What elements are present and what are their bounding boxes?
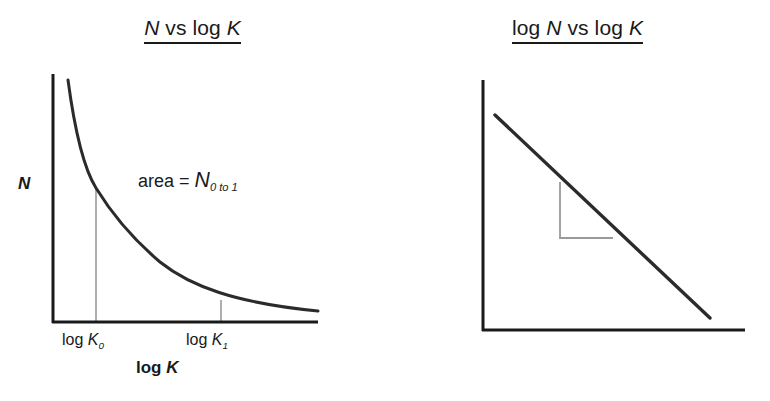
panel-n-vs-logk: N vs log K N log K log K0 log K1 area = … xyxy=(0,0,385,401)
tick-logk1-subscript: 1 xyxy=(222,340,228,351)
tick-logk1-prefix: log xyxy=(186,331,212,348)
power-law-line xyxy=(495,115,710,318)
annotation-area-prefix: area = xyxy=(138,171,195,191)
y-axis-label-left: N xyxy=(18,174,30,194)
plot-right-svg xyxy=(385,0,770,401)
x-axis-label-left: log K xyxy=(136,358,179,378)
x-axis-label-left-var: K xyxy=(166,358,178,377)
tick-label-logk0: log K0 xyxy=(62,331,104,349)
tick-logk0-subscript: 0 xyxy=(98,340,104,351)
panel-logn-vs-logk: log N vs log K log N log K slope = -m xyxy=(385,0,770,401)
tick-logk0-var: K xyxy=(88,331,99,348)
annotation-area-subscript: 0 to 1 xyxy=(210,181,238,193)
tick-logk0-prefix: log xyxy=(62,331,88,348)
figure-container: N vs log K N log K log K0 log K1 area = … xyxy=(0,0,770,401)
tick-logk1-var: K xyxy=(212,331,223,348)
annotation-area: area = N0 to 1 xyxy=(138,168,238,193)
tick-label-logk1: log K1 xyxy=(186,331,228,349)
decay-curve xyxy=(68,80,318,311)
slope-triangle-guide xyxy=(560,182,613,238)
annotation-area-var: N xyxy=(195,168,210,192)
x-axis-label-left-prefix: log xyxy=(136,358,166,377)
